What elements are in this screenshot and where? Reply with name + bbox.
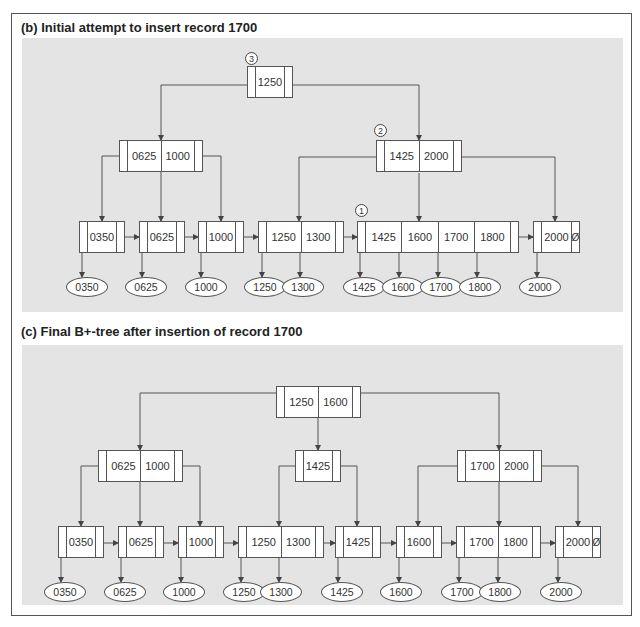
key-cell: 1800 <box>475 222 511 252</box>
pointer-cell <box>511 222 518 252</box>
key-cell: 1800 <box>499 527 533 557</box>
key-cell: 1000 <box>162 141 196 171</box>
step-number-badge: 1 <box>355 204 368 217</box>
pointer-cell <box>534 222 542 252</box>
key-cell: 0625 <box>107 451 141 481</box>
record-ellipse: 1425 <box>321 582 363 602</box>
record-ellipse: 0625 <box>104 582 146 602</box>
pointer-cell <box>434 527 441 557</box>
tree-node: 17002000 <box>457 450 542 482</box>
record-ellipse: 1700 <box>420 277 462 297</box>
pointer-cell <box>99 451 107 481</box>
key-cell: 1250 <box>285 387 319 417</box>
pointer-cell <box>140 222 148 252</box>
record-ellipse: 2000 <box>540 582 582 602</box>
pointer-cell <box>296 451 304 481</box>
pointer-cell <box>239 527 247 557</box>
key-cell: 1600 <box>405 527 434 557</box>
pointer-cell <box>285 67 292 97</box>
tree-node: 0350 <box>79 221 125 253</box>
tree-node: 0350 <box>58 526 104 558</box>
key-cell: 1250 <box>247 527 282 557</box>
pointer-cell <box>277 387 285 417</box>
tree-node: 1425 <box>295 450 341 482</box>
record-ellipse: 1000 <box>185 277 227 297</box>
key-cell: 2000 <box>564 527 593 557</box>
pointer-cell <box>377 141 385 171</box>
pointer-cell <box>175 451 182 481</box>
key-cell: 1250 <box>267 222 302 252</box>
tree-node: 1600 <box>396 526 442 558</box>
pointer-cell <box>336 222 343 252</box>
record-ellipse: 1700 <box>441 582 483 602</box>
tree-node: 1000 <box>178 526 224 558</box>
tree-node: 12501300 <box>238 526 324 558</box>
key-cell: 1300 <box>302 222 337 252</box>
key-cell: 1700 <box>465 527 499 557</box>
tree-node: 1250 <box>247 66 293 98</box>
tree-node: 1425 <box>335 526 381 558</box>
pointer-cell <box>397 527 405 557</box>
record-ellipse: 1800 <box>459 277 501 297</box>
tree-node: 12501300 <box>258 221 344 253</box>
pointer-cell <box>117 222 124 252</box>
key-cell: 1250 <box>256 67 285 97</box>
record-ellipse: 1250 <box>223 582 265 602</box>
step-number-badge: 2 <box>374 124 387 137</box>
pointer-cell <box>195 141 202 171</box>
record-ellipse: 1425 <box>343 277 385 297</box>
pointer-cell <box>156 527 163 557</box>
step-number-badge: 3 <box>245 52 258 65</box>
record-ellipse: 0625 <box>125 277 167 297</box>
key-cell: 0625 <box>127 527 156 557</box>
record-ellipse: 1600 <box>382 277 424 297</box>
pointer-cell <box>80 222 88 252</box>
pointer-cell <box>177 222 184 252</box>
key-cell: 1600 <box>402 222 438 252</box>
pointer-cell <box>259 222 267 252</box>
pointer-cell <box>179 527 187 557</box>
pointer-cell <box>316 527 323 557</box>
key-cell: 1300 <box>282 527 317 557</box>
pointer-cell <box>236 222 243 252</box>
key-cell: 1000 <box>141 451 175 481</box>
null-pointer: Ø <box>572 222 579 252</box>
pointer-cell <box>458 451 466 481</box>
pointer-cell <box>333 451 340 481</box>
key-cell: 1700 <box>466 451 500 481</box>
tree-node: 14252000 <box>376 140 462 172</box>
tree-node: 2000Ø <box>555 526 601 558</box>
key-cell: 1000 <box>207 222 236 252</box>
pointer-cell <box>457 527 465 557</box>
record-ellipse: 1600 <box>380 582 422 602</box>
bplus-tree-figure: (b) Initial attempt to insert record 170… <box>0 0 640 627</box>
key-cell: 1425 <box>366 222 402 252</box>
pointer-cell <box>533 527 540 557</box>
key-cell: 1000 <box>187 527 216 557</box>
pointer-cell <box>59 527 67 557</box>
tree-node: 1000 <box>198 221 244 253</box>
key-cell: 0625 <box>148 222 177 252</box>
pointer-cell <box>199 222 207 252</box>
record-ellipse: 2000 <box>519 277 561 297</box>
pointer-cell <box>216 527 223 557</box>
pointer-cell <box>353 387 360 417</box>
tree-node: 17001800 <box>456 526 541 558</box>
pointer-cell <box>96 527 103 557</box>
record-ellipse: 1300 <box>282 277 324 297</box>
record-ellipse: 1250 <box>244 277 286 297</box>
record-ellipse: 1300 <box>260 582 302 602</box>
pointer-cell <box>534 451 541 481</box>
pointer-cell <box>454 141 461 171</box>
pointer-cell <box>120 141 128 171</box>
pointer-cell <box>556 527 564 557</box>
record-ellipse: 0350 <box>66 277 108 297</box>
key-cell: 1700 <box>439 222 475 252</box>
key-cell: 2000 <box>420 141 455 171</box>
tree-node: 12501600 <box>276 386 361 418</box>
pointer-cell <box>373 527 380 557</box>
key-cell: 0350 <box>88 222 117 252</box>
tree-node: 06251000 <box>98 450 183 482</box>
pointer-cell <box>336 527 344 557</box>
tree-node: 06251000 <box>119 140 203 172</box>
